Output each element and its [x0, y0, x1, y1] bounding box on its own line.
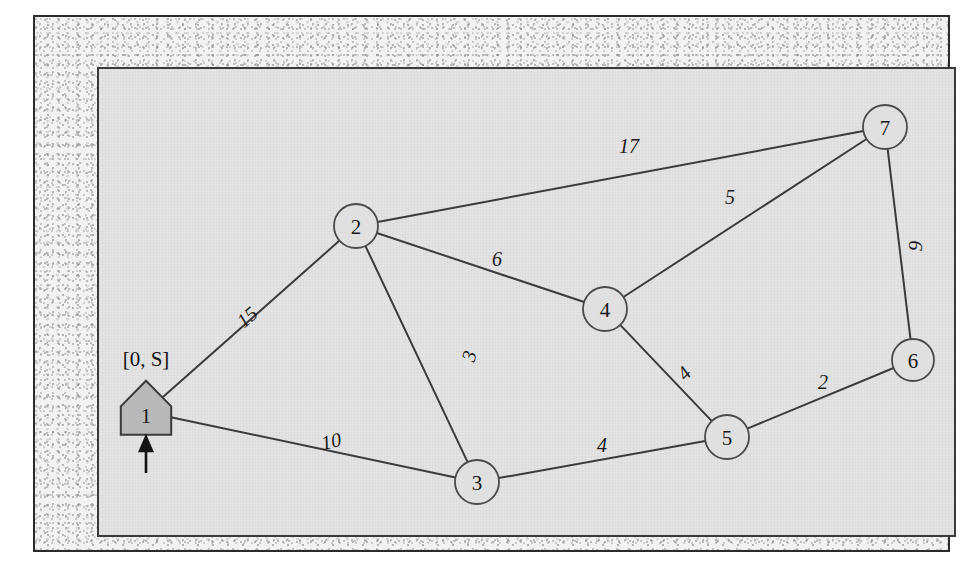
- node-label-3: 3: [472, 471, 483, 495]
- edge-weight-1-3: 10: [319, 428, 343, 454]
- source-up-arrow-icon: [140, 437, 152, 473]
- node-label-4: 4: [600, 298, 611, 322]
- edge-weight-5-6: 2: [818, 371, 828, 393]
- node-2[interactable]: 2: [334, 204, 378, 248]
- node-label-2: 2: [351, 215, 362, 239]
- edge-weight-2-4: 6: [492, 248, 502, 270]
- edge-weight-2-3: 3: [457, 348, 481, 365]
- graph-canvas: 1510176354429 1234567 [0, S]: [99, 69, 954, 535]
- node-6[interactable]: 6: [892, 339, 934, 381]
- edge-weight-6-7: 9: [904, 240, 927, 252]
- node-label-7: 7: [880, 116, 891, 140]
- edge-4-7: [623, 139, 866, 297]
- edge-2-4: [377, 233, 584, 302]
- node-3[interactable]: 3: [455, 460, 499, 504]
- node-1[interactable]: 1: [121, 381, 171, 435]
- edge-weight-4-5: 4: [673, 362, 696, 384]
- edge-weight-3-5: 4: [597, 434, 607, 456]
- source-cost-label: [0, S]: [123, 347, 170, 371]
- nodes-group: 1234567: [121, 105, 934, 504]
- edge-weights-group: 1510176354429: [232, 135, 926, 456]
- graph-panel: 1510176354429 1234567 [0, S]: [97, 67, 956, 537]
- figure-page: 1510176354429 1234567 [0, S]: [0, 0, 975, 575]
- node-4[interactable]: 4: [583, 287, 627, 331]
- edge-2-3: [365, 246, 467, 462]
- node-label-1: 1: [141, 404, 152, 428]
- node-label-6: 6: [908, 349, 919, 373]
- edge-weight-2-7: 17: [619, 135, 640, 157]
- node-label-5: 5: [722, 426, 733, 450]
- edges-group: [163, 131, 910, 478]
- edge-weight-4-7: 5: [725, 186, 735, 208]
- edge-weight-1-2: 15: [232, 302, 262, 332]
- outer-photo-frame: 1510176354429 1234567 [0, S]: [33, 15, 950, 552]
- node-7[interactable]: 7: [863, 105, 907, 149]
- edge-4-5: [620, 325, 712, 421]
- node-5[interactable]: 5: [705, 415, 749, 459]
- edge-1-3: [169, 417, 456, 478]
